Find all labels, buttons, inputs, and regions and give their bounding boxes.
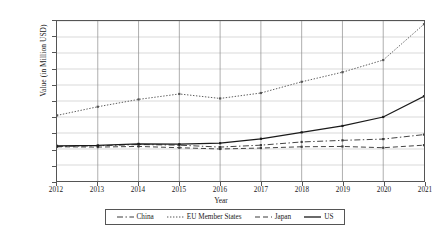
series-marker	[219, 142, 221, 144]
legend-item-eu-member-states[interactable]: EU Member States	[167, 213, 242, 221]
series-marker	[301, 146, 303, 148]
x-axis-title: Year	[0, 196, 442, 205]
x-tick-label: 2014	[131, 186, 145, 194]
y-tick-mark	[52, 166, 56, 167]
y-tick-mark	[52, 52, 56, 53]
x-tick-mark	[343, 182, 344, 186]
series-marker	[423, 144, 424, 146]
plot-area	[56, 20, 425, 182]
x-tick-mark	[302, 182, 303, 186]
legend-label: EU Member States	[187, 213, 242, 221]
series-marker	[341, 125, 343, 127]
y-tick-mark	[52, 69, 56, 70]
x-tick-mark	[97, 182, 98, 186]
legend-swatch-icon	[304, 214, 321, 220]
x-tick-mark	[384, 182, 385, 186]
y-tick-mark	[52, 117, 56, 118]
series-marker	[382, 116, 384, 118]
series-marker	[178, 93, 180, 95]
series-line-us	[57, 96, 424, 146]
series-marker	[137, 143, 139, 145]
series-marker	[382, 59, 384, 61]
series-marker	[178, 143, 180, 145]
line-chart-figure: Value (in Million USD) 050,000100,000150…	[0, 0, 442, 241]
y-tick-mark	[52, 101, 56, 102]
legend-swatch-icon	[117, 214, 134, 220]
series-marker	[423, 95, 424, 97]
legend-item-china[interactable]: China	[117, 213, 154, 221]
series-marker	[97, 106, 99, 108]
legend-label: US	[324, 213, 333, 221]
x-tick-label: 2015	[172, 186, 186, 194]
legend-swatch-icon	[167, 214, 184, 220]
x-tick-mark	[179, 182, 180, 186]
x-tick-label: 2021	[418, 186, 432, 194]
y-tick-mark	[52, 36, 56, 37]
series-marker	[341, 145, 343, 147]
series-marker	[260, 144, 262, 146]
series-marker	[219, 97, 221, 99]
x-tick-mark	[220, 182, 221, 186]
x-tick-label: 2013	[90, 186, 104, 194]
series-marker	[219, 146, 221, 148]
y-axis-title: Value (in Million USD)	[39, 0, 48, 136]
legend-swatch-icon	[255, 214, 272, 220]
x-tick-label: 2012	[49, 186, 63, 194]
x-tick-label: 2018	[295, 186, 309, 194]
y-tick-mark	[52, 133, 56, 134]
legend-item-japan[interactable]: Japan	[255, 213, 291, 221]
series-marker	[137, 98, 139, 100]
x-tick-mark	[425, 182, 426, 186]
legend-label: Japan	[275, 213, 291, 221]
x-tick-label: 2016	[213, 186, 227, 194]
x-tick-label: 2020	[377, 186, 391, 194]
series-marker	[382, 147, 384, 149]
y-tick-mark	[52, 150, 56, 151]
data-series-layer	[57, 21, 424, 181]
series-marker	[341, 71, 343, 73]
series-marker	[137, 145, 139, 147]
series-marker	[178, 147, 180, 149]
chart-legend: ChinaEU Member StatesJapanUS	[105, 209, 345, 225]
y-tick-mark	[52, 182, 56, 183]
series-line-eu-member-states	[57, 24, 424, 115]
series-marker	[219, 148, 221, 150]
legend-label: China	[137, 213, 154, 221]
series-marker	[97, 144, 99, 146]
y-tick-mark	[52, 85, 56, 86]
series-marker	[260, 147, 262, 149]
series-marker	[57, 114, 58, 116]
x-tick-label: 2017	[254, 186, 268, 194]
y-tick-mark	[52, 20, 56, 21]
series-marker	[341, 139, 343, 141]
series-marker	[301, 141, 303, 143]
series-marker	[301, 81, 303, 83]
series-marker	[423, 23, 424, 25]
x-tick-mark	[138, 182, 139, 186]
x-tick-mark	[56, 182, 57, 186]
series-marker	[382, 138, 384, 140]
series-marker	[57, 145, 58, 147]
x-tick-mark	[261, 182, 262, 186]
series-marker	[260, 138, 262, 140]
x-tick-label: 2019	[336, 186, 350, 194]
series-marker	[260, 92, 262, 94]
legend-item-us[interactable]: US	[304, 213, 333, 221]
series-marker	[301, 131, 303, 133]
series-marker	[423, 134, 424, 136]
